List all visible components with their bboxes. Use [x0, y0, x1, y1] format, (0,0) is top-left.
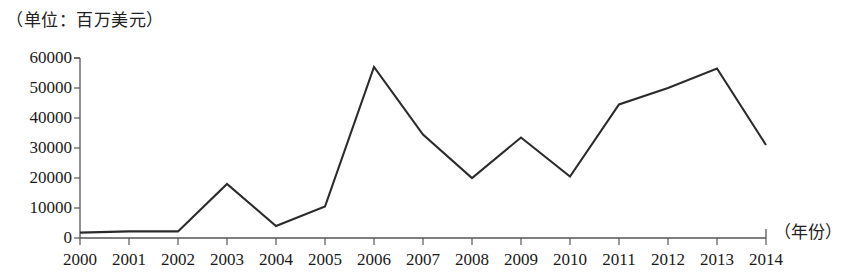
line-chart: （单位：百万美元） 010000200003000040000500006000…	[0, 0, 842, 275]
y-axis-ticks	[74, 58, 80, 238]
plot-area	[0, 0, 842, 275]
axis-lines	[74, 58, 766, 238]
x-axis-ticks	[80, 238, 766, 245]
data-series-line	[80, 67, 766, 233]
x-axis-tick-label: 2014	[736, 250, 796, 269]
